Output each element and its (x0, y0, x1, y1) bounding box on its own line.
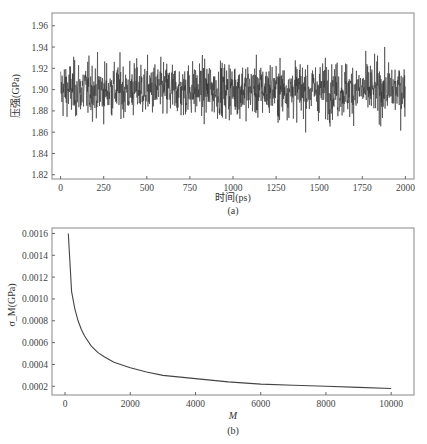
y-tick-label: 1.92 (31, 64, 48, 74)
y-tick-label: 0.0016 (22, 229, 48, 239)
subfigure-caption: (a) (227, 205, 238, 217)
pressure-series (61, 47, 406, 133)
plot-frame (52, 228, 414, 395)
y-tick-label: 0.0002 (22, 382, 48, 392)
subfigure-caption: (b) (227, 425, 239, 437)
x-tick-label: 1250 (267, 183, 286, 193)
x-tick-label: 1750 (353, 183, 372, 193)
x-tick-label: 2000 (396, 183, 415, 193)
x-axis-label: 时间(ps) (215, 191, 251, 204)
figure: 1.821.841.861.881.901.921.941.96 0250500… (0, 0, 427, 444)
x-tick-label: 8000 (316, 399, 335, 409)
y-axis-ticks: 0.00020.00040.00060.00080.00100.00120.00… (22, 229, 55, 392)
y-tick-label: 1.90 (31, 85, 48, 95)
y-tick-label: 1.94 (31, 43, 48, 53)
y-axis-ticks: 1.821.841.861.881.901.921.941.96 (31, 21, 55, 180)
y-tick-label: 1.82 (31, 170, 48, 180)
x-axis-label: M (228, 410, 238, 421)
x-tick-label: 0 (63, 399, 68, 409)
x-tick-label: 750 (183, 183, 198, 193)
y-tick-label: 0.0006 (22, 338, 48, 348)
x-tick-label: 1500 (310, 183, 329, 193)
x-tick-label: 4000 (186, 399, 205, 409)
y-tick-label: 1.88 (31, 106, 48, 116)
y-tick-label: 1.84 (31, 149, 48, 159)
y-tick-label: 0.0004 (22, 360, 48, 370)
y-tick-label: 1.86 (31, 128, 48, 138)
sigma-line (68, 233, 391, 388)
x-tick-label: 0 (58, 183, 63, 193)
y-axis-label: σ_M(GPa) (6, 283, 18, 326)
x-tick-label: 2000 (121, 399, 140, 409)
x-tick-label: 250 (97, 183, 112, 193)
sigma-series (68, 233, 391, 388)
y-tick-label: 1.96 (31, 21, 48, 31)
pressure-chart: 1.821.841.861.881.901.921.941.96 0250500… (10, 13, 415, 217)
pressure-line (61, 47, 406, 133)
sigma-chart: 0.00020.00040.00060.00080.00100.00120.00… (6, 228, 414, 437)
y-tick-label: 0.0010 (22, 294, 48, 304)
x-tick-label: 10000 (379, 399, 403, 409)
y-tick-label: 0.0008 (22, 316, 48, 326)
y-axis-label: 压强(GPa) (10, 74, 22, 118)
y-tick-label: 0.0012 (22, 273, 48, 283)
y-tick-label: 0.0014 (22, 251, 48, 261)
x-tick-label: 6000 (251, 399, 270, 409)
x-tick-label: 500 (140, 183, 155, 193)
